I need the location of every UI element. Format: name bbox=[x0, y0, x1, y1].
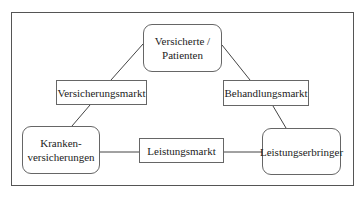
node-krankenversicherungen: Kranken- versicherungen bbox=[22, 126, 100, 174]
node-versicherte-patienten: Versicherte / Patienten bbox=[143, 24, 222, 72]
edge-label-leistungsmarkt: Leistungsmarkt bbox=[139, 138, 224, 163]
edge-label-versicherungsmarkt: Versicherungsmarkt bbox=[56, 80, 147, 105]
edge-label-behandlungsmarkt: Behandlungsmarkt bbox=[223, 80, 309, 106]
node-leistungserbringer: Leistungserbringer bbox=[262, 128, 341, 175]
